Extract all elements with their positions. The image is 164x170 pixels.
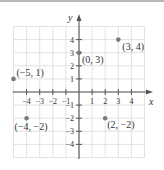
x-tick-label: 4 <box>129 97 133 106</box>
point-label: (0, 3) <box>82 54 104 66</box>
coordinate-plane: x y −4−3−2−112344321−1−2−3−4 (3, 4)(0, 3… <box>0 0 164 170</box>
x-axis-arrow-icon <box>146 90 153 95</box>
data-point <box>24 116 29 121</box>
axes: x y <box>13 12 155 159</box>
x-axis-label: x <box>148 96 154 107</box>
data-point <box>77 50 82 55</box>
point-label: (2, −2) <box>107 119 134 131</box>
point-label: (−4, −2) <box>15 121 48 133</box>
y-tick-label: 3 <box>70 49 74 58</box>
y-axis-label: y <box>67 12 73 23</box>
y-axis-arrow-icon <box>77 14 82 21</box>
point-label: (3, 4) <box>122 41 144 53</box>
y-tick-label: −1 <box>65 101 74 110</box>
y-tick-label: −3 <box>65 127 74 136</box>
y-tick-label: 4 <box>70 36 74 45</box>
point-label: (−5, 1) <box>17 67 44 79</box>
y-tick-label: −2 <box>65 114 74 123</box>
x-tick-label: 3 <box>116 97 120 106</box>
data-point <box>116 37 121 42</box>
x-tick-label: −4 <box>22 97 31 106</box>
data-point <box>11 77 16 82</box>
x-tick-label: 2 <box>103 97 107 106</box>
plotted-points: (3, 4)(0, 3)(−5, 1)(−4, −2)(2, −2) <box>11 37 144 133</box>
y-tick-label: 2 <box>70 62 74 71</box>
x-tick-label: 1 <box>90 97 94 106</box>
x-tick-label: −3 <box>35 97 44 106</box>
x-tick-label: −2 <box>49 97 58 106</box>
y-tick-label: 1 <box>70 75 74 84</box>
y-tick-label: −4 <box>65 140 74 149</box>
